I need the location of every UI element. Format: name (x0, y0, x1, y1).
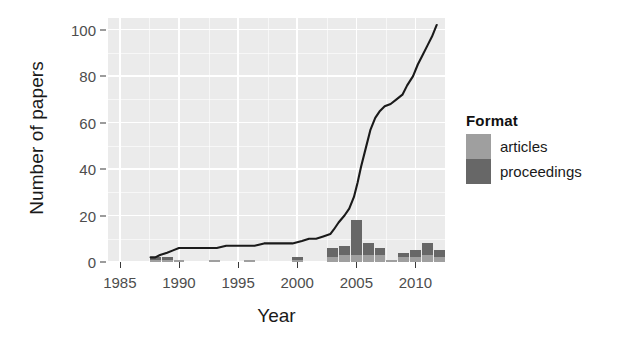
legend-swatch-proceedings (466, 159, 491, 184)
legend-item-articles[interactable]: articles (466, 134, 616, 159)
gridline-minor-vertical (209, 18, 210, 262)
legend-title: Format (466, 112, 616, 129)
bar-segment-proceedings (292, 257, 303, 259)
legend: Format articlesproceedings (466, 112, 616, 184)
bar-segment-articles (386, 260, 397, 262)
gridline-minor-vertical (268, 18, 269, 262)
legend-item-proceedings[interactable]: proceedings (466, 159, 616, 184)
gridline-major-vertical (296, 18, 297, 262)
x-axis-tick-mark (179, 262, 180, 268)
bar-segment-proceedings (422, 243, 433, 255)
bar-segment-articles (410, 257, 421, 262)
x-axis-tick-label: 1990 (149, 274, 209, 291)
x-axis-tick-mark (238, 262, 239, 268)
gridline-major-vertical (237, 18, 238, 262)
chart-figure: Number of papers Year 020406080100 19851… (0, 0, 625, 341)
bar-segment-proceedings (351, 220, 362, 255)
gridline-minor-horizontal (108, 192, 445, 193)
x-axis-tick-mark (415, 262, 416, 268)
x-axis-title: Year (108, 305, 445, 327)
y-axis-tick-label: 60 (50, 114, 96, 131)
bar-segment-articles (209, 260, 220, 262)
x-axis-tick-label: 1995 (208, 274, 268, 291)
x-axis-tick-label: 2010 (385, 274, 445, 291)
bar-segment-articles (363, 255, 374, 262)
gridline-minor-horizontal (108, 99, 445, 100)
bar-segment-proceedings (363, 243, 374, 255)
bar-segment-articles (434, 257, 445, 262)
gridline-major-horizontal (108, 29, 445, 30)
bar-segment-articles (162, 260, 173, 262)
gridline-minor-vertical (149, 18, 150, 262)
x-axis-tick-label: 2000 (267, 274, 327, 291)
y-axis-tick-mark (100, 262, 106, 263)
bar-segment-articles (150, 260, 161, 262)
legend-label-proceedings: proceedings (500, 163, 582, 180)
legend-items: articlesproceedings (466, 134, 616, 184)
bar-segment-proceedings (434, 250, 445, 257)
y-axis-tick-label: 0 (50, 254, 96, 271)
gridline-major-vertical (178, 18, 179, 262)
x-axis-tick-mark (356, 262, 357, 268)
plot-panel (108, 18, 445, 262)
y-axis-tick-label: 100 (50, 21, 96, 38)
bar-segment-articles (327, 257, 338, 262)
bar-segment-proceedings (375, 248, 386, 255)
gridline-major-vertical (119, 18, 120, 262)
y-axis-tick-label: 80 (50, 68, 96, 85)
gridline-minor-horizontal (108, 239, 445, 240)
bar-segment-articles (422, 255, 433, 262)
gridline-minor-horizontal (108, 146, 445, 147)
cumulative-line (108, 18, 445, 262)
bar-segment-proceedings (150, 257, 161, 259)
bar-segment-articles (292, 260, 303, 262)
x-axis-tick-label: 1985 (90, 274, 150, 291)
x-axis-tick-mark (297, 262, 298, 268)
y-axis-tick-label: 20 (50, 207, 96, 224)
gridline-minor-vertical (386, 18, 387, 262)
gridline-major-horizontal (108, 215, 445, 216)
bar-segment-proceedings (398, 253, 409, 258)
legend-swatch-articles (466, 134, 491, 159)
bar-segment-proceedings (327, 248, 338, 257)
bar-segment-proceedings (339, 246, 350, 255)
y-axis-tick-mark (100, 215, 106, 216)
bar-segment-proceedings (410, 250, 421, 257)
gridline-major-horizontal (108, 168, 445, 169)
bar-segment-articles (339, 255, 350, 262)
x-axis-tick-label: 2005 (326, 274, 386, 291)
y-axis-tick-mark (100, 122, 106, 123)
bar-segment-articles (375, 255, 386, 262)
gridline-minor-vertical (327, 18, 328, 262)
bar-segment-proceedings (162, 257, 173, 259)
gridline-minor-horizontal (108, 53, 445, 54)
gridline-major-vertical (415, 18, 416, 262)
y-axis-tick-mark (100, 76, 106, 77)
gridline-major-horizontal (108, 75, 445, 76)
legend-label-articles: articles (500, 138, 548, 155)
y-axis-tick-label: 40 (50, 161, 96, 178)
bar-segment-articles (174, 260, 185, 262)
bar-segment-articles (398, 257, 409, 262)
y-axis-title: Number of papers (26, 28, 48, 248)
bar-segment-articles (244, 260, 255, 262)
y-axis-tick-mark (100, 29, 106, 30)
bar-segment-articles (351, 255, 362, 262)
y-axis-tick-mark (100, 169, 106, 170)
gridline-major-horizontal (108, 122, 445, 123)
x-axis-tick-mark (120, 262, 121, 268)
